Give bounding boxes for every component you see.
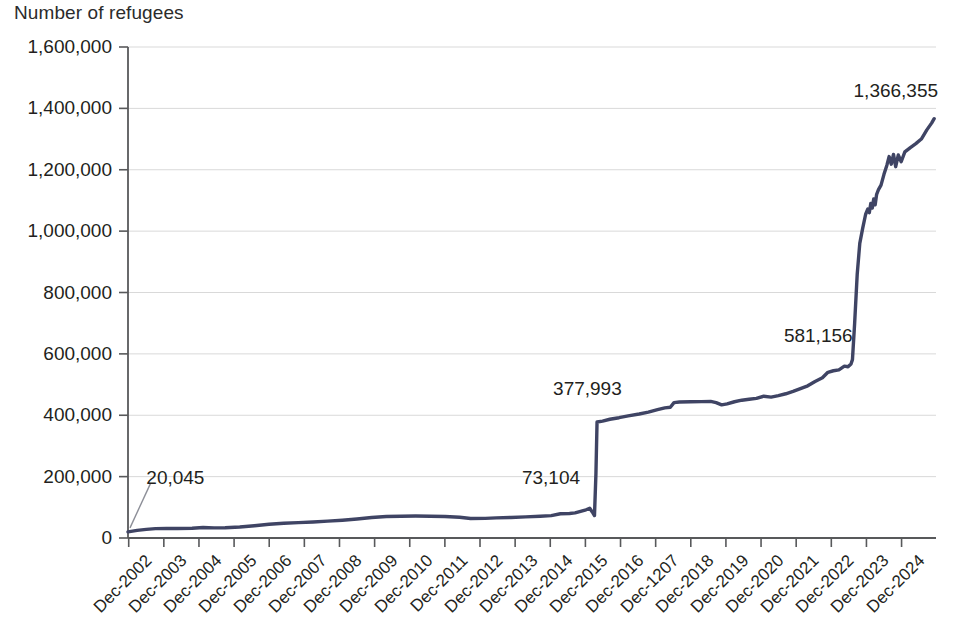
y-axis-tick-label: 1,600,000 [0, 36, 112, 58]
x-axis-ticks [129, 538, 902, 547]
refugees-line-chart: Number of refugees 0200,000400,000600,00… [0, 0, 961, 639]
y-axis-ticks [119, 47, 128, 538]
y-axis-tick-label: 600,000 [0, 343, 112, 365]
y-axis-tick-label: 0 [0, 527, 112, 549]
y-axis-tick-label: 1,400,000 [0, 97, 112, 119]
y-axis-tick-label: 200,000 [0, 466, 112, 488]
data-point-label: 20,045 [146, 467, 204, 489]
annotation-leader-lines [130, 484, 150, 528]
y-axis-tick-label: 400,000 [0, 404, 112, 426]
gridlines [128, 47, 936, 538]
data-point-label: 581,156 [784, 325, 853, 347]
data-point-label: 377,993 [553, 378, 622, 400]
y-axis-tick-label: 1,200,000 [0, 159, 112, 181]
y-axis-tick-label: 1,000,000 [0, 220, 112, 242]
data-point-label: 1,366,355 [854, 80, 939, 102]
y-axis-tick-label: 800,000 [0, 282, 112, 304]
data-point-label: 73,104 [522, 467, 580, 489]
plot-area [0, 0, 961, 639]
